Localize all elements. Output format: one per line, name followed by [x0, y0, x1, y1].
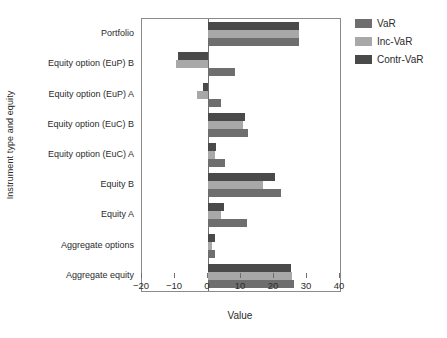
x-tick-mark	[240, 273, 241, 278]
bar-contr-var-6	[208, 203, 224, 211]
bar-var-1	[208, 68, 235, 76]
y-tick-label: Equity option (EuP) B	[16, 58, 134, 68]
bar-var-5	[208, 189, 281, 197]
legend-item-inc-var: Inc-VaR	[355, 32, 445, 50]
legend-label: VaR	[377, 18, 396, 29]
bar-var-6	[208, 219, 247, 227]
bar-var-0	[208, 38, 299, 46]
x-tick-mark	[306, 273, 307, 278]
legend-label: Inc-VaR	[377, 36, 412, 47]
bar-inc-var-5	[208, 181, 263, 189]
y-tick-label: Equity option (EuP) A	[16, 89, 134, 99]
x-axis-title-text: Value	[228, 310, 253, 321]
legend-swatch-icon	[355, 37, 372, 46]
legend-label: Contr-VaR	[377, 54, 424, 65]
x-tick-label: 40	[319, 280, 359, 291]
y-tick-label: Aggregate equity	[16, 270, 134, 280]
x-tick-mark	[174, 273, 175, 278]
x-axis-title: Value	[141, 310, 339, 321]
legend: VaRInc-VaRContr-VaR	[355, 14, 445, 68]
bar-inc-var-7	[208, 242, 212, 250]
bar-var-3	[208, 129, 248, 137]
legend-swatch-icon	[355, 55, 372, 64]
y-axis-tick-labels: PortfolioEquity option (EuP) BEquity opt…	[18, 18, 138, 290]
bar-var-2	[208, 99, 221, 107]
bar-inc-var-8	[208, 272, 292, 280]
y-axis-title-text: Instrument type and equity	[5, 91, 15, 200]
y-tick-label: Equity A	[16, 209, 134, 219]
x-tick-mark	[339, 273, 340, 278]
bar-contr-var-5	[208, 173, 275, 181]
y-tick-label: Equity option (EuC) A	[16, 149, 134, 159]
legend-item-contr-var: Contr-VaR	[355, 50, 445, 68]
bar-inc-var-2	[197, 91, 208, 99]
x-tick-mark	[273, 273, 274, 278]
x-tick-mark	[207, 273, 208, 278]
legend-item-var: VaR	[355, 14, 445, 32]
bar-inc-var-6	[208, 211, 221, 219]
bar-contr-var-8	[208, 264, 291, 272]
bar-contr-var-3	[208, 113, 245, 121]
y-tick-label: Portfolio	[16, 28, 134, 38]
bar-inc-var-0	[208, 30, 299, 38]
legend-swatch-icon	[355, 19, 372, 28]
bar-contr-var-7	[208, 234, 215, 242]
bar-inc-var-1	[176, 60, 208, 68]
bar-contr-var-0	[208, 22, 299, 30]
bar-contr-var-1	[178, 52, 208, 60]
x-tick-mark	[141, 273, 142, 278]
bar-inc-var-4	[208, 151, 215, 159]
y-tick-label: Equity B	[16, 179, 134, 189]
y-tick-label: Equity option (EuC) B	[16, 119, 134, 129]
bar-inc-var-3	[208, 121, 243, 129]
bar-var-4	[208, 159, 225, 167]
plot-area	[141, 18, 341, 292]
bar-contr-var-4	[208, 143, 216, 151]
chart-figure: Instrument type and equity PortfolioEqui…	[0, 0, 447, 338]
bar-contr-var-2	[203, 83, 208, 91]
bar-var-7	[208, 250, 215, 258]
y-tick-label: Aggregate options	[16, 240, 134, 250]
